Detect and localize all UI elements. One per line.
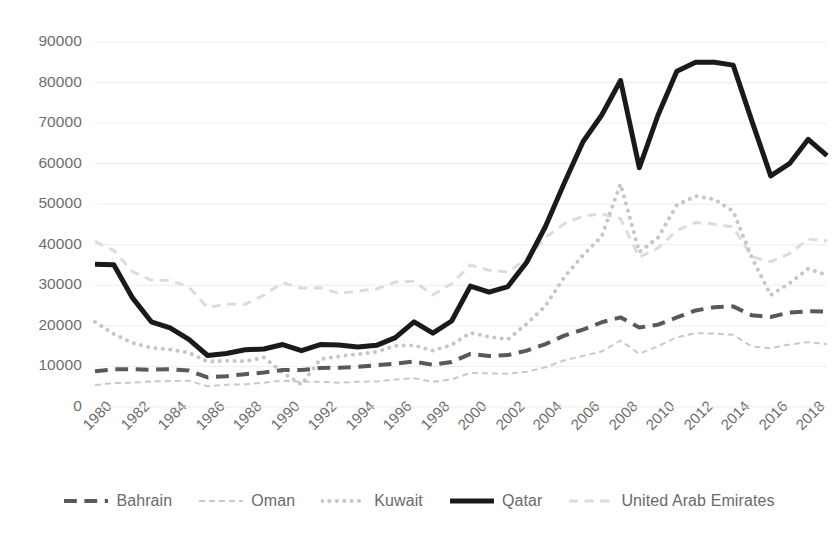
dotted-swatch: [321, 494, 367, 508]
dashed-faint-swatch: [568, 494, 614, 508]
chart-legend: BahrainOmanKuwaitQatarUnited Arab Emirat…: [0, 484, 838, 518]
solid-dark-swatch: [449, 494, 495, 508]
legend-label: United Arab Emirates: [621, 492, 774, 510]
legend-item-oman[interactable]: Oman: [198, 492, 295, 510]
series-line-united-arab-emirates: [95, 214, 827, 308]
legend-label: Bahrain: [116, 492, 172, 510]
thin-light-swatch: [198, 494, 244, 508]
series-line-qatar: [95, 62, 827, 355]
legend-item-kuwait[interactable]: Kuwait: [321, 492, 423, 510]
legend-item-bahrain[interactable]: Bahrain: [63, 492, 172, 510]
legend-item-united-arab-emirates[interactable]: United Arab Emirates: [568, 492, 774, 510]
dashed-dark-swatch: [63, 494, 109, 508]
legend-label: Kuwait: [374, 492, 423, 510]
legend-label: Qatar: [502, 492, 543, 510]
legend-label: Oman: [251, 492, 295, 510]
plot-area: [0, 0, 838, 536]
gcc-gdp-per-capita-line-chart: 0100002000030000400005000060000700008000…: [0, 0, 838, 536]
series-lines: [95, 62, 827, 386]
legend-item-qatar[interactable]: Qatar: [449, 492, 543, 510]
